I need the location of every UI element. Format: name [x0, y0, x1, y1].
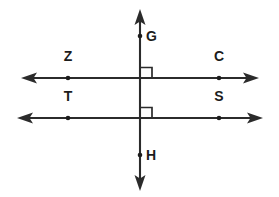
point-dot-c: [217, 76, 222, 81]
point-label-t: T: [64, 88, 73, 104]
point-dot-t: [66, 116, 71, 121]
geometry-diagram: G Z C T S H: [0, 0, 279, 197]
point-dot-h: [138, 153, 143, 158]
point-dot-z: [66, 76, 71, 81]
right-angle-marker-upper: [141, 68, 152, 79]
point-dot-g: [138, 34, 143, 39]
point-label-s: S: [214, 88, 223, 104]
geometry-canvas: G Z C T S H: [0, 0, 279, 197]
point-dot-s: [217, 116, 222, 121]
point-label-z: Z: [64, 48, 73, 64]
right-angle-marker-lower: [141, 108, 152, 119]
point-label-g: G: [146, 28, 157, 44]
point-label-c: C: [214, 48, 224, 64]
point-label-h: H: [146, 147, 156, 163]
